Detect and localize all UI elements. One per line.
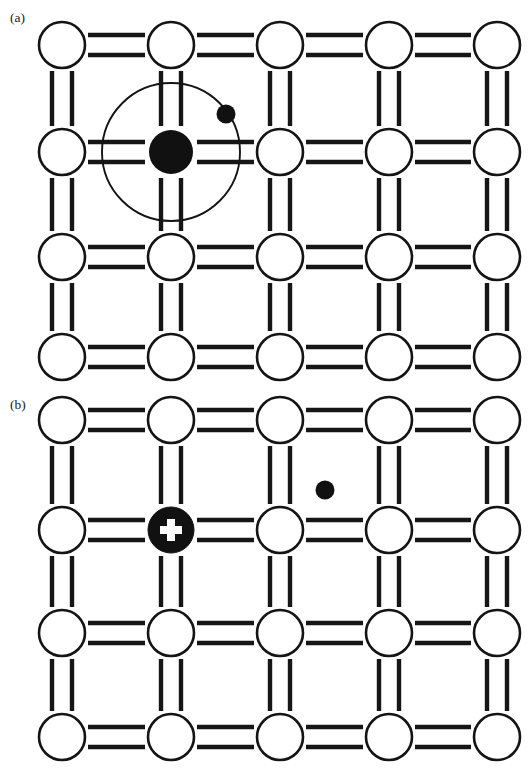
lattice-atom	[257, 714, 303, 760]
lattice-atom	[148, 610, 194, 656]
lattice-atom	[39, 610, 85, 656]
lattice-atom	[366, 129, 412, 175]
lattice-atom	[366, 234, 412, 280]
lattice-atom	[39, 507, 85, 553]
lattice-atom	[39, 129, 85, 175]
lattice-atom	[257, 507, 303, 553]
figure-background	[0, 0, 530, 771]
lattice-atom	[39, 714, 85, 760]
lattice-atom	[366, 610, 412, 656]
panel-a-label: (a)	[10, 10, 25, 25]
lattice-atom	[474, 714, 520, 760]
donor-nucleus-icon	[149, 130, 193, 174]
lattice-atom	[257, 397, 303, 443]
lattice-atom	[257, 129, 303, 175]
lattice-atom	[366, 714, 412, 760]
lattice-atom	[366, 22, 412, 68]
lattice-atom	[257, 234, 303, 280]
figure-container: (a) (b)	[0, 0, 530, 771]
lattice-atom	[366, 334, 412, 380]
lattice-atom	[257, 334, 303, 380]
panel-b-label: (b)	[10, 397, 26, 412]
lattice-atom	[474, 129, 520, 175]
lattice-atom	[39, 334, 85, 380]
lattice-atom	[39, 397, 85, 443]
lattice-atom	[257, 22, 303, 68]
lattice-atom	[366, 397, 412, 443]
lattice-atom	[148, 334, 194, 380]
lattice-atom	[366, 507, 412, 553]
lattice-atom	[474, 610, 520, 656]
lattice-atom	[474, 234, 520, 280]
lattice-atom	[474, 507, 520, 553]
lattice-atom	[474, 22, 520, 68]
lattice-atom	[474, 334, 520, 380]
ionized-donor-assembly	[148, 507, 194, 553]
lattice-atom	[39, 22, 85, 68]
lattice-figure-canvas: (a) (b)	[0, 0, 530, 771]
lattice-atom	[148, 22, 194, 68]
free-electron-icon	[316, 481, 335, 500]
lattice-atom	[148, 234, 194, 280]
lattice-atom	[257, 610, 303, 656]
lattice-atom	[474, 397, 520, 443]
lattice-atom	[148, 397, 194, 443]
lattice-atom	[39, 234, 85, 280]
lattice-atom	[148, 714, 194, 760]
bound-electron-icon	[217, 105, 236, 124]
